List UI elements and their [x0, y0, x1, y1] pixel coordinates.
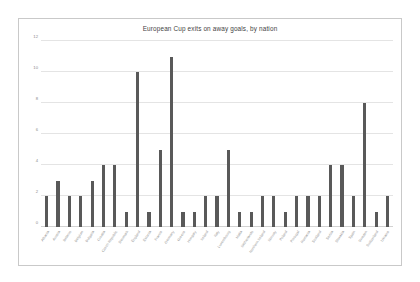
bar-slot [268, 41, 279, 227]
bar [295, 196, 298, 227]
y-axis-tick-label: 8 [36, 96, 38, 101]
bar [238, 212, 241, 228]
bar [318, 196, 321, 227]
bar [250, 212, 253, 228]
x-axis-tick-label: Serbia [325, 230, 334, 241]
x-axis-tick-label: Ukraine [381, 230, 391, 243]
x-tick-slot: Sweden [359, 229, 370, 269]
x-axis-tick-label: Belarus [63, 230, 73, 242]
y-axis-tick-label: 0 [36, 220, 38, 225]
y-axis-tick-label: 10 [33, 65, 38, 70]
x-axis-tick-label: England [130, 230, 141, 243]
bars-layer [41, 41, 393, 227]
x-axis-tick-label: Bulgaria [85, 230, 96, 243]
bar-slot [370, 41, 381, 227]
bar-slot [132, 41, 143, 227]
x-axis-tick-label: Albania [40, 230, 50, 242]
bar-slot [359, 41, 370, 227]
bar-slot [257, 41, 268, 227]
bar-slot [166, 41, 177, 227]
bar-slot [121, 41, 132, 227]
x-axis-tick-label: Scotland [311, 230, 322, 244]
x-tick-slot: Bulgaria [86, 229, 97, 269]
bar [227, 150, 230, 228]
bar [306, 196, 309, 227]
bar-slot [280, 41, 291, 227]
bar [102, 165, 105, 227]
bar-slot [86, 41, 97, 227]
plot-area: 024681012 [41, 41, 393, 227]
x-axis-tick-label: Sweden [357, 230, 368, 243]
x-tick-slot: Ukraine [382, 229, 393, 269]
x-axis-tick-label: Romania [300, 230, 312, 244]
x-axis-tick-label: Spain [348, 230, 357, 240]
x-axis-tick-label: Malta [235, 230, 243, 240]
x-tick-slot: Norway [268, 229, 279, 269]
bar-slot [41, 41, 52, 227]
bar-slot [143, 41, 154, 227]
y-axis-tick-label: 2 [36, 189, 38, 194]
bar [363, 103, 366, 227]
x-tick-slot: Germany [166, 229, 177, 269]
bar [45, 196, 48, 227]
bar-slot [336, 41, 347, 227]
x-axis-tick-label: Norway [267, 230, 277, 242]
bar [386, 196, 389, 227]
bar-slot [382, 41, 393, 227]
x-tick-slot: Romania [302, 229, 313, 269]
bar [261, 196, 264, 227]
bar-slot [348, 41, 359, 227]
bar [193, 212, 196, 228]
x-tick-slot: Switzerland [370, 229, 381, 269]
bar [352, 196, 355, 227]
bar [340, 165, 343, 227]
x-axis-tick-label: France [154, 230, 164, 242]
bar-slot [155, 41, 166, 227]
y-axis-tick-label: 12 [33, 34, 38, 39]
bar-slot [234, 41, 245, 227]
x-tick-slot: England [132, 229, 143, 269]
bar-slot [98, 41, 109, 227]
bar [91, 181, 94, 228]
x-tick-slot: Hungary [189, 229, 200, 269]
bar-slot [314, 41, 325, 227]
bar [147, 212, 150, 228]
x-tick-slot: Albania [41, 229, 52, 269]
x-axis-tick-label: Hungary [187, 230, 198, 244]
x-tick-slot: Austria [52, 229, 63, 269]
bar-slot [52, 41, 63, 227]
x-tick-slot: Scotland [314, 229, 325, 269]
bar-slot [189, 41, 200, 227]
x-axis-tick-label: Austria [52, 230, 62, 242]
bar [56, 181, 59, 228]
bar [181, 212, 184, 228]
x-tick-slot: Slovakia [336, 229, 347, 269]
bar [284, 212, 287, 228]
x-tick-slot: Estonia [143, 229, 154, 269]
bar [170, 57, 173, 228]
x-tick-slot: Belarus [64, 229, 75, 269]
x-tick-slot: Poland [280, 229, 291, 269]
y-axis-tick-label: 4 [36, 158, 38, 163]
bar-slot [109, 41, 120, 227]
x-axis-tick-label: Italy [213, 230, 220, 238]
bar [113, 165, 116, 227]
x-tick-slot: Northern Ireland [257, 229, 268, 269]
x-tick-slot: Czech Republic [109, 229, 120, 269]
bar [215, 196, 218, 227]
bar-slot [177, 41, 188, 227]
bar [159, 150, 162, 228]
bar-slot [291, 41, 302, 227]
x-tick-slot: Greece [177, 229, 188, 269]
x-tick-slot: France [155, 229, 166, 269]
bar-slot [245, 41, 256, 227]
x-axis-tick-label: Slovakia [334, 230, 345, 244]
bar [375, 212, 378, 228]
x-tick-slot: Serbia [325, 229, 336, 269]
x-tick-slot: Denmark [121, 229, 132, 269]
x-axis-tick-label: Portugal [289, 230, 300, 243]
bar-slot [302, 41, 313, 227]
x-tick-slot: Malta [234, 229, 245, 269]
x-axis-tick-label: Belgium [73, 230, 84, 243]
bar [68, 196, 71, 227]
